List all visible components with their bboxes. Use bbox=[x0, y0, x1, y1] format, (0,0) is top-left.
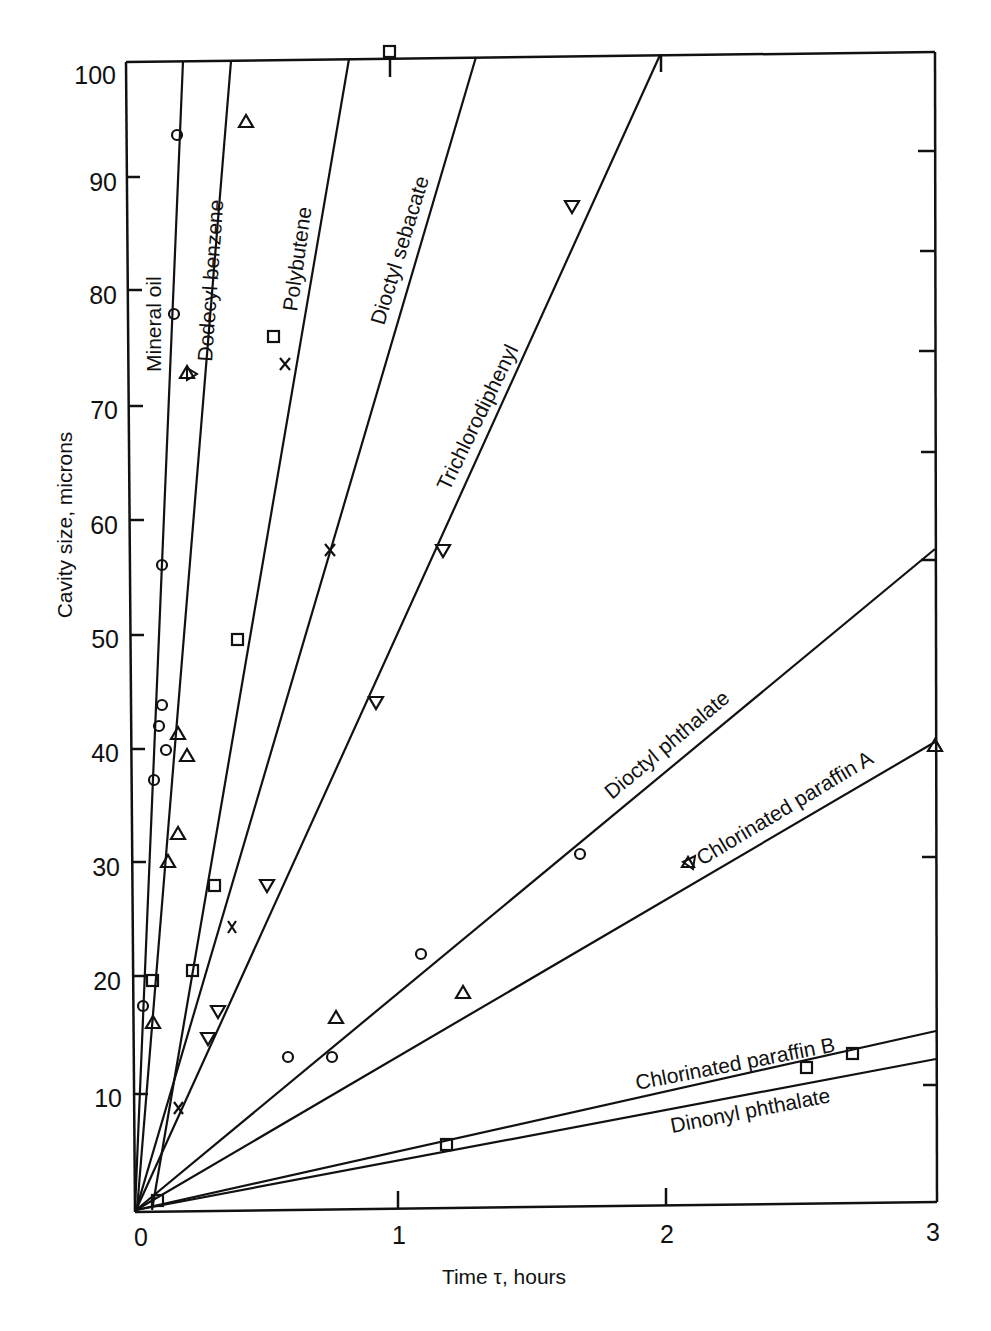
label-dinonyl-phthalate: Dinonyl phthalate bbox=[668, 1083, 832, 1137]
label-dodecyl-benzene: Dodecyl benzene bbox=[193, 199, 227, 362]
line-dioctyl-phthalate bbox=[136, 549, 935, 1210]
y-tick-80: 80 bbox=[89, 281, 117, 309]
y-tick-30: 30 bbox=[92, 853, 120, 881]
label-chlorinated-paraffin-a: Chlorinated paraffin A bbox=[692, 746, 877, 870]
y-tick-labels: 100 90 80 70 60 50 40 30 20 10 bbox=[74, 61, 122, 1112]
x-axis-ticks bbox=[390, 54, 666, 1208]
label-chlorinated-paraffin-b: Chlorinated paraffin B bbox=[633, 1033, 836, 1094]
label-polybutene: Polybutene bbox=[278, 205, 315, 312]
y-tick-20: 20 bbox=[93, 967, 121, 995]
label-dioctyl-phthalate: Dioctyl phthalate bbox=[600, 686, 734, 803]
x-tick-1: 1 bbox=[392, 1221, 406, 1249]
cavity-size-chart: 100 90 80 70 60 50 40 30 20 10 0 1 2 3 T… bbox=[0, 0, 991, 1331]
line-chlorinated-paraffin-a bbox=[136, 742, 935, 1210]
x-axis-title: Time τ, hours bbox=[442, 1265, 566, 1288]
label-trichlorodiphenyl: Trichlorodiphenyl bbox=[432, 341, 522, 494]
x-tick-2: 2 bbox=[660, 1220, 674, 1248]
y-tick-50: 50 bbox=[91, 625, 119, 653]
triangle-down-markers bbox=[201, 201, 579, 1045]
y-tick-70: 70 bbox=[90, 396, 118, 424]
line-dinonyl-phthalate bbox=[136, 1059, 936, 1210]
y-tick-40: 40 bbox=[91, 739, 119, 767]
y-tick-100: 100 bbox=[74, 61, 116, 89]
y-axis-ticks-right bbox=[918, 151, 937, 1085]
x-tick-labels: 0 1 2 3 bbox=[134, 1218, 940, 1251]
x-tick-0: 0 bbox=[134, 1223, 148, 1251]
y-tick-90: 90 bbox=[89, 168, 117, 196]
label-dioctyl-sebacate: Dioctyl sebacate bbox=[366, 173, 433, 327]
x-tick-3: 3 bbox=[926, 1218, 940, 1246]
y-axis-title: Cavity size, microns bbox=[53, 432, 76, 619]
label-mineral-oil: Mineral oil bbox=[142, 276, 165, 372]
line-polybutene bbox=[152, 59, 349, 1210]
y-tick-60: 60 bbox=[90, 511, 118, 539]
y-tick-10: 10 bbox=[94, 1084, 122, 1112]
square-markers bbox=[147, 46, 858, 1206]
